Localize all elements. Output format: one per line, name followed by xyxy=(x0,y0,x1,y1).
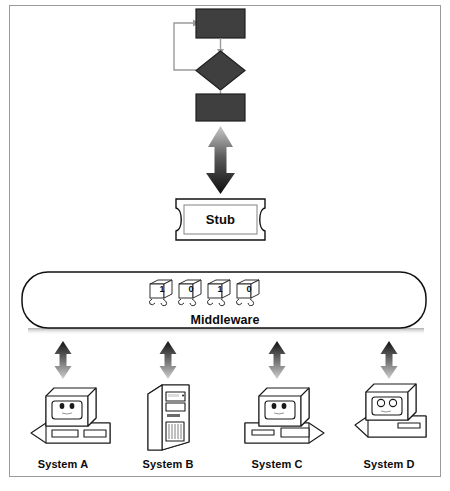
system-label-b: System B xyxy=(128,458,208,470)
packet-digit-3: 1 xyxy=(214,284,226,294)
diagram-frame xyxy=(9,5,441,477)
packet-digit-4: 0 xyxy=(243,284,255,294)
packet-digit-1: 1 xyxy=(156,284,168,294)
packet-digit-2: 0 xyxy=(185,284,197,294)
stub-label: Stub xyxy=(176,212,265,227)
diagram-canvas: Stub Middleware System A System B System… xyxy=(0,0,450,491)
system-label-c: System C xyxy=(237,458,317,470)
system-label-d: System D xyxy=(349,458,429,470)
middleware-label: Middleware xyxy=(174,313,276,327)
system-label-a: System A xyxy=(23,458,103,470)
